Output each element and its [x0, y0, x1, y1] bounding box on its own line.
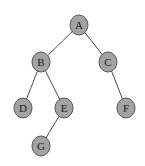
node-b: B	[32, 52, 50, 72]
node-e: E	[55, 98, 73, 118]
binary-tree-diagram: A B C D E F G	[0, 0, 145, 166]
node-c-label: C	[104, 56, 111, 68]
node-d-label: D	[19, 102, 27, 114]
node-g: G	[32, 136, 50, 156]
node-f-label: F	[123, 102, 129, 114]
node-a: A	[70, 15, 88, 35]
node-d: D	[14, 98, 32, 118]
node-f: F	[117, 98, 135, 118]
node-a-label: A	[75, 19, 83, 31]
node-g-label: G	[37, 140, 45, 152]
node-b-label: B	[37, 56, 44, 68]
node-e-label: E	[61, 102, 68, 114]
tree-edges	[23, 25, 126, 146]
node-c: C	[99, 52, 117, 72]
